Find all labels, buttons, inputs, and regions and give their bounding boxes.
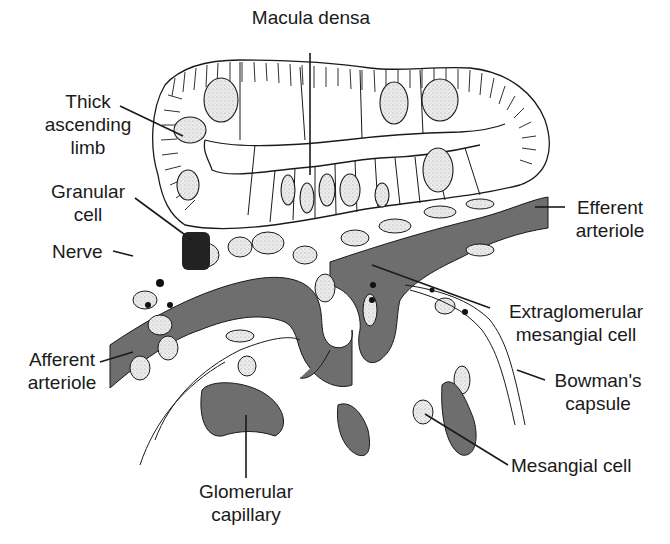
label-glomerular-capillary: Glomerular capillary xyxy=(190,480,302,526)
label-text: Macula densa xyxy=(246,6,376,29)
label-efferent-arteriole: Efferent arteriole xyxy=(560,196,660,242)
label-text: Afferent xyxy=(22,348,102,371)
bowmans-capsule-leader xyxy=(517,370,545,380)
label-text: Glomerular xyxy=(190,480,302,503)
label-text: Efferent xyxy=(560,196,660,219)
label-macula-densa: Macula densa xyxy=(246,6,376,29)
label-text: mesangial cell xyxy=(496,323,656,346)
label-text: limb xyxy=(38,136,138,159)
label-text: Mesangial cell xyxy=(511,454,631,477)
label-text: arteriole xyxy=(560,219,660,242)
label-text: ascending xyxy=(38,113,138,136)
nerve-leader xyxy=(113,251,133,256)
label-text: Granular xyxy=(42,180,134,203)
label-text: Extraglomerular xyxy=(496,300,656,323)
label-text: arteriole xyxy=(22,371,102,394)
label-text: capillary xyxy=(190,503,302,526)
label-mesangial-cell: Mesangial cell xyxy=(511,454,631,477)
label-bowmans-capsule: Bowman's capsule xyxy=(548,369,648,415)
label-text: Thick xyxy=(38,90,138,113)
label-extraglomerular-mesangial-cell: Extraglomerular mesangial cell xyxy=(496,300,656,346)
label-afferent-arteriole: Afferent arteriole xyxy=(22,348,102,394)
label-text: cell xyxy=(42,203,134,226)
label-granular-cell: Granular cell xyxy=(42,180,134,226)
label-nerve: Nerve xyxy=(52,240,103,263)
label-text: Bowman's xyxy=(548,369,648,392)
label-text: Nerve xyxy=(52,240,103,263)
label-text: capsule xyxy=(548,392,648,415)
label-thick-ascending-limb: Thick ascending limb xyxy=(38,90,138,159)
